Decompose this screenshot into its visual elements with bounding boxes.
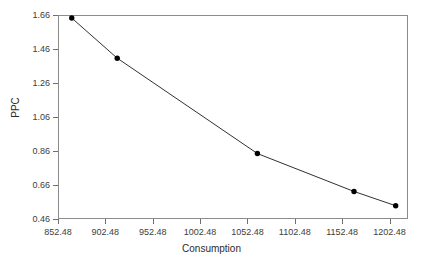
x-tick-label: 1052.48 (231, 227, 264, 237)
x-tick-mark (390, 219, 391, 224)
x-tick-mark (58, 219, 59, 224)
x-tick-label: 952.48 (139, 227, 167, 237)
data-point (351, 189, 356, 194)
x-tick-mark (153, 219, 154, 224)
x-tick-label: 852.48 (44, 227, 72, 237)
y-tick-label: 1.66 (2, 10, 50, 20)
x-tick-mark (342, 219, 343, 224)
y-tick-mark (53, 15, 58, 16)
y-axis-label: PPC (10, 81, 21, 135)
y-tick-label: 0.86 (2, 146, 50, 156)
x-tick-mark (247, 219, 248, 224)
data-point (115, 55, 120, 60)
x-tick-mark (200, 219, 201, 224)
y-tick-mark (53, 151, 58, 152)
x-tick-label: 1002.48 (184, 227, 217, 237)
data-point (69, 15, 74, 20)
chart-figure: 0.460.660.861.061.261.461.66 852.48902.4… (0, 0, 423, 265)
y-tick-mark (53, 49, 58, 50)
series-markers (69, 15, 398, 208)
x-axis-label: Consumption (0, 243, 423, 254)
y-tick-label: 0.66 (2, 180, 50, 190)
x-tick-label: 1152.48 (326, 227, 358, 237)
x-tick-mark (105, 219, 106, 224)
data-point (255, 151, 260, 156)
data-point (393, 203, 398, 208)
y-tick-label: 0.46 (2, 214, 50, 224)
series-line (72, 18, 396, 206)
data-series-layer (0, 0, 423, 265)
x-tick-mark (295, 219, 296, 224)
y-tick-mark (53, 185, 58, 186)
x-tick-label: 1202.48 (373, 227, 406, 237)
y-tick-mark (53, 83, 58, 84)
x-tick-label: 902.48 (92, 227, 120, 237)
y-tick-label: 1.46 (2, 44, 50, 54)
y-tick-mark (53, 117, 58, 118)
x-tick-label: 1102.48 (279, 227, 311, 237)
